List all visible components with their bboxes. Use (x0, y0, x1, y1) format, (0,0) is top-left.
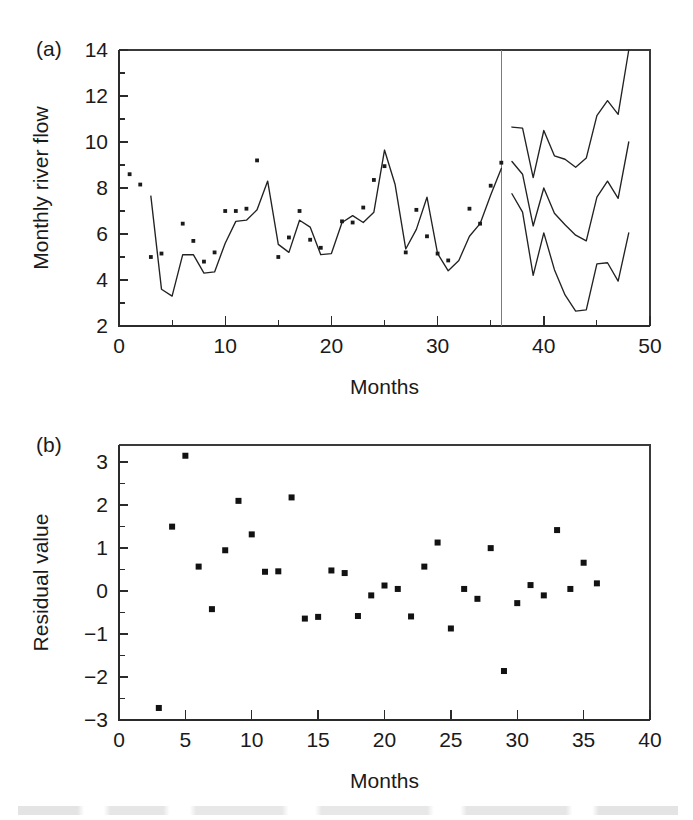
panel-b-xtick-label: 25 (439, 728, 462, 751)
panel-a-xtick-label: 20 (320, 334, 343, 357)
panel-a-data-point (340, 219, 344, 223)
panel-b-ytick-label: −3 (84, 708, 108, 731)
panel-b-data-point (474, 596, 480, 602)
panel-b-plot: (b)−3−2−101230510152025303540MonthsResid… (0, 400, 693, 800)
panel-b-label: (b) (36, 433, 62, 456)
panel-b-data-point (222, 547, 228, 553)
panel-a-data-point (489, 184, 493, 188)
panel-b-ytick-label: −1 (84, 622, 108, 645)
panel-a-xaxis-title: Months (350, 375, 419, 398)
panel-a-data-point (351, 221, 355, 225)
panel-b-data-point (594, 580, 600, 586)
panel-b-xtick-label: 30 (506, 728, 529, 751)
panel-b-ytick-label: −2 (84, 665, 108, 688)
panel-b-data-point (302, 616, 308, 622)
panel-a-frame (119, 50, 650, 326)
panel-a-data-point (128, 172, 132, 176)
panel-a-data-point (213, 251, 217, 255)
panel-a-xtick-label: 50 (638, 334, 661, 357)
panel-b-data-point (289, 494, 295, 500)
panel-b-data-point (342, 570, 348, 576)
panel-b-xaxis-title: Months (350, 769, 419, 792)
panel-a-series-forecast-lower-bound (512, 194, 629, 311)
panel-b-data-point (209, 606, 215, 612)
panel-a-label: (a) (36, 37, 62, 60)
panel-b-data-point (235, 498, 241, 504)
panel-a-data-point (181, 222, 185, 226)
panel-b-xtick-label: 35 (572, 728, 595, 751)
panel-a-xtick-label: 0 (113, 334, 125, 357)
panel-a-xtick-label: 10 (214, 334, 237, 357)
panel-a-river-flow: (a)246810121401020304050MonthsMonthly ri… (0, 0, 693, 408)
panel-b-data-point (554, 527, 560, 533)
panel-b-data-point (156, 705, 162, 711)
panel-b-data-point (408, 613, 414, 619)
panel-a-data-point (287, 236, 291, 240)
panel-b-axes (119, 445, 650, 720)
panel-b-data-point (196, 564, 202, 570)
panel-a-data-point (319, 246, 323, 250)
panel-b-data-point (435, 540, 441, 546)
panel-a-observed-points (128, 159, 504, 264)
panel-b-data-point (461, 586, 467, 592)
panel-b-data-point (169, 524, 175, 530)
panel-b-ytick-label: 3 (96, 450, 108, 473)
panel-a-data-point (425, 234, 429, 238)
panel-a-data-point (298, 209, 302, 213)
panel-b-data-point (182, 453, 188, 459)
panel-b-data-point (395, 586, 401, 592)
panel-b-data-point (382, 583, 388, 589)
panel-a-ytick-label: 4 (96, 268, 108, 291)
panel-a-ytick-label: 8 (96, 176, 108, 199)
panel-a-data-point (436, 252, 440, 256)
panel-a-ytick-label: 10 (85, 130, 108, 153)
panel-a-data-point (160, 252, 164, 256)
panel-a-data-point (149, 255, 153, 259)
panel-b-residuals: (b)−3−2−101230510152025303540MonthsResid… (0, 400, 693, 800)
panel-a-ytick-label: 12 (85, 84, 108, 107)
panel-a-data-point (245, 207, 249, 211)
panel-a-xtick-label: 30 (426, 334, 449, 357)
panel-a-data-point (308, 238, 312, 242)
panel-a-data-point (138, 183, 142, 187)
panel-a-data-point (383, 164, 387, 168)
panel-b-data-point (581, 560, 587, 566)
panel-a-data-point (276, 255, 280, 259)
panel-b-xtick-label: 10 (240, 728, 263, 751)
panel-a-data-point (446, 259, 450, 263)
panel-b-data-point (328, 567, 334, 573)
panel-a-data-point (414, 208, 418, 212)
panel-a-ytick-label: 14 (85, 38, 109, 61)
panel-b-data-point (501, 668, 507, 674)
panel-a-axes (119, 50, 650, 326)
panel-b-frame (119, 445, 650, 720)
panel-b-data-point (315, 614, 321, 620)
panel-b-xtick-label: 5 (180, 728, 192, 751)
panel-a-data-point (234, 209, 238, 213)
panel-b-ytick-label: 1 (96, 536, 108, 559)
panel-a-plot: (a)246810121401020304050MonthsMonthly ri… (0, 0, 693, 408)
panel-b-ytick-label: 2 (96, 493, 108, 516)
panel-b-yaxis-title: Residual value (29, 514, 52, 652)
panel-b-data-point (528, 582, 534, 588)
panel-b-xtick-label: 40 (638, 728, 661, 751)
panel-b-ytick-label: 0 (96, 579, 108, 602)
panel-a-ytick-label: 2 (96, 314, 108, 337)
panel-a-data-point (404, 251, 408, 255)
panel-a-data-point (478, 222, 482, 226)
panel-a-series-forecast-upper-bound (512, 50, 629, 178)
panel-b-data-point (514, 600, 520, 606)
panel-b-data-point (541, 592, 547, 598)
panel-a-data-point (372, 178, 376, 182)
panel-b-data-point (262, 569, 268, 575)
panel-b-data-point (448, 625, 454, 631)
panel-b-data-point (567, 586, 573, 592)
panel-b-data-point (249, 531, 255, 537)
panel-a-data-point (468, 207, 472, 211)
panel-a-data-point (202, 260, 206, 264)
panel-b-data-point (368, 592, 374, 598)
panel-a-ytick-label: 6 (96, 222, 108, 245)
panel-b-data-point (275, 568, 281, 574)
panel-a-data-point (361, 206, 365, 210)
panel-b-data-point (421, 564, 427, 570)
